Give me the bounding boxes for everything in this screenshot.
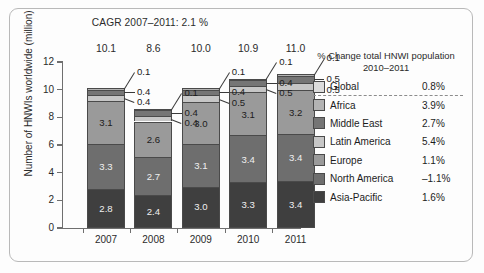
legend-item-label: North America (330, 173, 393, 184)
legend-divider (313, 95, 463, 96)
bar-segment[interactable]: 3.3 (229, 182, 267, 228)
bar-segment[interactable] (134, 110, 172, 116)
bar-segment-label: 3.0 (194, 202, 207, 212)
bar-segment-label: 3.3 (242, 200, 255, 210)
bar-segment[interactable]: 3.1 (182, 144, 220, 187)
y-tick-label: 12 (30, 56, 54, 67)
bar-segment-callout-label: 0.1 (137, 66, 150, 77)
legend-item-value: 3.9% (422, 100, 445, 111)
bar-total-label: 10.9 (222, 43, 274, 54)
bar-segment[interactable] (87, 90, 125, 96)
bar-segment-callout-label: 0.4 (184, 117, 197, 128)
legend-item-value: 2.7% (422, 118, 445, 129)
x-tick-mark (177, 229, 178, 233)
x-tick-label: 2008 (130, 234, 176, 245)
x-tick-label: 2007 (83, 234, 129, 245)
legend-swatch (313, 191, 325, 203)
x-tick-mark (225, 229, 226, 233)
legend-item[interactable]: North America–1.1% (300, 169, 476, 187)
callout-leader-line (219, 92, 230, 93)
callout-leader-line (266, 83, 277, 84)
bar-segment[interactable]: 3.0 (182, 187, 220, 229)
legend-item-value: 0.8% (422, 81, 445, 92)
legend-item-value: 1.6% (422, 192, 445, 203)
bar-total-label: 10.1 (80, 43, 132, 54)
bar-segment[interactable]: 2.7 (134, 157, 172, 194)
x-tick-label: 2010 (225, 234, 271, 245)
bar-segment-label: 2.7 (147, 172, 160, 182)
bar-segment-label: 2.6 (147, 135, 160, 145)
legend-item-label: Global (330, 81, 359, 92)
y-tick-label: 10 (30, 84, 54, 95)
legend-item[interactable]: Global0.8% (300, 78, 476, 96)
chart-title: CAGR 2007–2011: 2.1 % (0, 17, 300, 28)
bar-segment-label: 3.1 (99, 118, 112, 128)
x-tick-mark (272, 229, 273, 233)
bar-segment-callout-label: 0.1 (184, 87, 197, 98)
legend-item[interactable]: Europe1.1% (300, 151, 476, 169)
legend-item[interactable]: Africa3.9% (300, 96, 476, 114)
legend-swatch (313, 99, 325, 111)
y-tick-label: 8 (30, 111, 54, 122)
bar-segment-label: 2.4 (147, 207, 160, 217)
bar-total-label: 10.0 (175, 43, 227, 54)
x-tick-label: 2011 (273, 234, 319, 245)
bar-segment[interactable]: 3.3 (87, 144, 125, 190)
legend-swatch (313, 154, 325, 166)
legend-item-value: –1.1% (422, 173, 450, 184)
bar-segment[interactable]: 3.4 (229, 135, 267, 182)
bar-segment-callout-label: 0.4 (137, 96, 150, 107)
bar-segment-label: 3.4 (242, 155, 255, 165)
legend-item[interactable]: Latin America5.4% (300, 133, 476, 151)
x-axis-line (62, 228, 301, 229)
bar-segment[interactable]: 2.4 (134, 195, 172, 228)
x-tick-mark (83, 229, 84, 233)
plot-area: 2.83.33.12.42.72.63.03.13.03.33.43.13.43… (62, 62, 300, 228)
callout-leader-line (171, 113, 182, 114)
bar-segment-label: 3.1 (242, 110, 255, 120)
legend-header: % Change total HNWI population 2010–2011 (300, 50, 472, 74)
bar-segment[interactable] (229, 79, 267, 80)
legend: % Change total HNWI population 2010–2011… (300, 50, 476, 206)
bar-segment[interactable] (229, 80, 267, 86)
bar-segment-callout-label: 0.5 (232, 97, 245, 108)
legend-item-label: Asia-Pacific (330, 192, 382, 203)
legend-swatch (313, 173, 325, 185)
legend-item-label: Middle East (330, 118, 382, 129)
bar-stack[interactable]: 2.83.33.1 (87, 62, 125, 228)
legend-swatch (313, 81, 325, 93)
y-tick-label: 2 (30, 194, 54, 205)
legend-item[interactable]: Middle East2.7% (300, 114, 476, 132)
legend-item-value: 1.1% (422, 155, 445, 166)
legend-item-label: Africa (330, 100, 356, 111)
legend-item-value: 5.4% (422, 136, 445, 147)
legend-item[interactable]: Asia-Pacific1.6% (300, 188, 476, 206)
y-axis-label: Number of HNWIs worldwide (million) (23, 4, 34, 184)
legend-header-line2: 2010–2011 (300, 62, 472, 74)
y-tick-label: 6 (30, 139, 54, 150)
legend-swatch (313, 117, 325, 129)
bar-segment-label: 3.3 (99, 162, 112, 172)
bar-segment-label: 3.1 (194, 161, 207, 171)
chart-figure: CAGR 2007–2011: 2.1 % 024681012 Number o… (0, 0, 484, 273)
legend-item-label: Latin America (330, 136, 391, 147)
bar-segment-callout-label: 0.1 (232, 66, 245, 77)
bar-segment[interactable]: 2.6 (134, 122, 172, 158)
legend-swatch (313, 136, 325, 148)
bar-segment[interactable] (87, 88, 125, 89)
bar-segment[interactable]: 2.8 (87, 189, 125, 228)
legend-header-line1: % Change total HNWI population (300, 50, 472, 62)
legend-item-label: Europe (330, 155, 362, 166)
legend-items: Global0.8%Africa3.9%Middle East2.7%Latin… (300, 78, 476, 207)
bar-segment-callout-label: 0.1 (279, 56, 292, 67)
bar-segment[interactable] (87, 95, 125, 101)
bar-segment[interactable]: 3.1 (87, 101, 125, 144)
x-tick-mark (130, 229, 131, 233)
bar-segment-label: 2.8 (99, 204, 112, 214)
bar-segment[interactable] (134, 116, 172, 122)
callout-leader-line (124, 92, 135, 93)
bar-segment-callout-label: 0.5 (279, 87, 292, 98)
bar-segment[interactable] (134, 109, 172, 110)
y-tick-label: 0 (30, 222, 54, 233)
y-tick-label: 4 (30, 167, 54, 178)
